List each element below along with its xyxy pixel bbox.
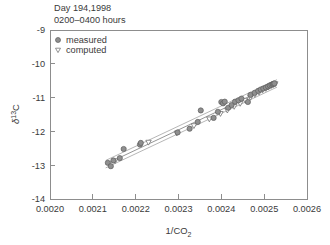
x-tick-label-4: 0.0024	[207, 204, 235, 214]
chart-legend: measured computed	[56, 35, 107, 55]
x-tick-label-6: 0.0026	[293, 204, 321, 214]
y-tick-label-3: -12	[32, 127, 45, 137]
y-tick-label-5: -14	[32, 194, 45, 204]
y-axis-tick-labels: -9 -10 -11 -12 -13 -14	[32, 25, 45, 204]
legend-label-measured: measured	[66, 35, 107, 45]
data-point-measured	[198, 108, 203, 113]
x-tick-label-5: 0.0025	[250, 204, 278, 214]
data-point-measured	[121, 146, 126, 151]
y-tick-label-0: -9	[37, 25, 45, 35]
annotation-line-2: 0200–0400 hours	[54, 15, 126, 25]
x-axis-tick-labels: 0.0020 0.0021 0.0022 0.0023 0.0024 0.002…	[36, 204, 321, 214]
y-tick-label-2: -11	[32, 93, 45, 103]
data-point-measured	[272, 81, 277, 86]
data-point-measured	[215, 109, 220, 114]
data-point-measured	[222, 99, 227, 104]
x-tick-label-3: 0.0023	[164, 204, 192, 214]
x-tick-label-0: 0.0020	[36, 204, 64, 214]
x-axis-title-subscript: 2	[187, 231, 191, 238]
data-point-measured	[108, 164, 113, 169]
data-point-measured	[117, 156, 122, 161]
legend-marker-measured-icon	[56, 38, 61, 43]
x-axis-title-main: 1/CO	[166, 225, 188, 236]
legend-label-computed: computed	[66, 45, 106, 55]
svg-text:δ13C: δ13C	[10, 104, 21, 124]
y-tick-label-4: -13	[32, 161, 45, 171]
y-axis-title-element: C	[10, 104, 21, 111]
data-point-measured	[211, 115, 216, 120]
data-point-measured	[111, 158, 116, 163]
y-axis-ticks	[50, 30, 55, 199]
plot-frame	[50, 30, 307, 199]
data-point-measured	[239, 96, 244, 101]
confidence-band-upper	[106, 80, 277, 161]
x-axis-ticks	[50, 194, 307, 199]
x-axis-title: 1/CO2	[166, 225, 192, 238]
legend-marker-computed-icon	[56, 48, 61, 52]
keeling-plot-figure: Day 194,1998 0200–0400 hours -9 -10 -11 …	[0, 0, 330, 245]
data-point-measured	[245, 99, 250, 104]
data-point-measured	[175, 130, 180, 135]
x-tick-label-2: 0.0022	[122, 204, 150, 214]
data-point-measured	[195, 119, 200, 124]
chart-canvas: Day 194,1998 0200–0400 hours -9 -10 -11 …	[0, 0, 330, 245]
x-tick-label-1: 0.0021	[79, 204, 107, 214]
y-axis-title-superscript: 13	[10, 111, 17, 119]
annotation-line-1: Day 194,1998	[54, 3, 111, 13]
data-point-measured	[138, 140, 143, 145]
y-tick-label-1: -10	[32, 59, 45, 69]
y-axis-title: δ13C	[10, 104, 21, 124]
data-point-measured	[187, 126, 192, 131]
svg-text:1/CO2: 1/CO2	[166, 225, 192, 238]
